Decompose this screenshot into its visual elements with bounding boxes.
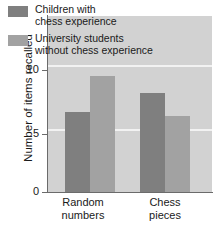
bar-chess-university	[165, 116, 190, 192]
legend-label-children: Children with chess experience	[35, 4, 117, 27]
bar-chart-figure: Number of items recalled 10 5 0 Children…	[0, 0, 222, 228]
x-category-label-chess: Chess pieces	[132, 196, 198, 221]
bar-random-university	[90, 76, 115, 192]
legend-item-children: Children with chess experience	[8, 4, 160, 27]
bar-random-children	[65, 112, 90, 192]
legend-label-university: University students without chess experi…	[35, 33, 153, 56]
gridline-10	[48, 65, 212, 67]
y-tick-mark-0	[42, 192, 48, 193]
bar-chess-children	[140, 93, 165, 192]
x-category-label-random: Random numbers	[50, 196, 116, 221]
y-tick-label-0: 0	[33, 186, 39, 197]
legend-swatch-children	[8, 6, 28, 17]
legend-item-university: University students without chess experi…	[8, 33, 160, 56]
y-tick-label-5: 5	[33, 128, 39, 139]
legend: Children with chess experience Universit…	[8, 4, 160, 62]
legend-swatch-university	[8, 35, 28, 46]
y-tick-label-10: 10	[27, 64, 39, 75]
x-axis-line	[47, 192, 213, 193]
